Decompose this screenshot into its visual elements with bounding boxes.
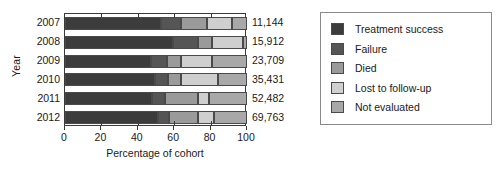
legend: Treatment successFailureDiedLost to foll… [320,12,492,125]
cohort-total-labels: 11,14415,91223,70935,43152,48269,763 [252,13,304,126]
bar-segment [65,17,161,30]
legend-swatch-icon [331,43,344,55]
x-axis-tick [64,126,65,130]
x-axis-tick-label: 60 [153,131,193,143]
x-axis-tick [173,126,174,130]
x-axis-title: Percentage of cohort [64,147,246,159]
bar-segment [158,111,169,124]
bar-segment [181,55,212,68]
bar-segment [243,36,247,49]
y-axis-tick-label: 2007 [26,16,60,28]
bar-segment [181,73,217,86]
bar-segment [198,92,209,105]
legend-swatch-icon [331,82,344,94]
x-axis-tick [246,126,247,130]
plot-inner-tick [101,121,102,125]
bar-segment [65,73,155,86]
legend-item[interactable]: Not evaluated [331,100,420,114]
y-axis-tick-labels: 200720082009201020112012 [22,13,60,126]
bar-segment [155,73,168,86]
y-axis-tick-label: 2009 [26,54,60,66]
legend-label: Died [355,62,377,74]
bar-segment [218,73,247,86]
x-axis-tick [210,126,211,130]
cohort-total-label: 15,912 [252,35,304,47]
legend-item[interactable]: Died [331,61,377,75]
plot-inner-tick [138,121,139,125]
bar-segment [198,111,214,124]
bar-segment [207,17,232,30]
bar-row [65,73,245,86]
cohort-total-label: 52,482 [252,92,304,104]
bar-segment [65,36,173,49]
bar-segment [152,92,165,105]
legend-item[interactable]: Lost to follow-up [331,81,431,95]
bars-layer [65,14,245,125]
bar-segment [168,73,182,86]
plot-inner-tick [174,121,175,125]
plot-inner-tick [211,14,212,18]
bar-segment [65,55,151,68]
legend-swatch-icon [331,101,344,113]
cohort-total-label: 35,431 [252,73,304,85]
y-axis-title: Year [10,36,22,96]
bar-segment [165,92,198,105]
x-axis-tick-label: 20 [80,131,120,143]
bar-segment [232,17,247,30]
plot-inner-tick [138,14,139,18]
bar-segment [65,111,158,124]
bar-segment [161,17,181,30]
bar-row [65,55,245,68]
bar-segment [169,111,198,124]
legend-swatch-icon [331,23,344,35]
bar-segment [181,17,206,30]
bar-segment [198,36,212,49]
x-axis-tick-label: 40 [117,131,157,143]
legend-label: Not evaluated [355,101,420,113]
plot-area [64,13,246,126]
bar-segment [212,55,247,68]
bar-segment [209,92,247,105]
bar-row [65,36,245,49]
bar-row [65,111,245,124]
cohort-total-label: 69,763 [252,111,304,123]
bar-segment [214,111,247,124]
y-axis-tick-label: 2008 [26,35,60,47]
legend-label: Treatment success [355,23,443,35]
bar-segment [212,36,244,49]
cohort-total-label: 23,709 [252,54,304,66]
x-axis-tick-label: 80 [190,131,230,143]
x-axis-tick [137,126,138,130]
y-axis-tick-label: 2012 [26,111,60,123]
x-axis-tick-label: 0 [44,131,84,143]
stacked-bar-chart: Year 200720082009201020112012 11,14415,9… [0,0,500,174]
plot-inner-tick [174,14,175,18]
legend-item[interactable]: Failure [331,42,387,56]
bar-segment [65,92,152,105]
bar-segment [173,36,198,49]
bar-row [65,17,245,30]
legend-swatch-icon [331,62,344,74]
plot-inner-tick [211,121,212,125]
legend-label: Lost to follow-up [355,82,431,94]
x-axis-tick-label: 100 [226,131,266,143]
y-axis-tick-label: 2011 [26,92,60,104]
bar-segment [167,55,181,68]
bar-row [65,92,245,105]
cohort-total-label: 11,144 [252,16,304,28]
x-axis-tick [100,126,101,130]
bar-segment [151,55,166,68]
plot-inner-tick [101,14,102,18]
legend-item[interactable]: Treatment success [331,22,443,36]
legend-label: Failure [355,43,387,55]
y-axis-tick-label: 2010 [26,73,60,85]
